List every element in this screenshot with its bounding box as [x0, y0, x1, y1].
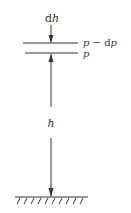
dh-label: dh: [45, 12, 59, 25]
height-arrowhead-up-icon: [49, 54, 54, 62]
ground-hatch-icon: [17, 198, 83, 204]
lower-layer-label: p: [83, 48, 90, 59]
height-label: h: [48, 117, 55, 130]
dh-arrowhead-icon: [49, 35, 54, 43]
upper-layer-label: p − dp: [83, 37, 118, 48]
atmospheric-layer-diagram: dh p − dp p h: [0, 0, 131, 213]
height-arrowhead-down-icon: [49, 188, 54, 197]
